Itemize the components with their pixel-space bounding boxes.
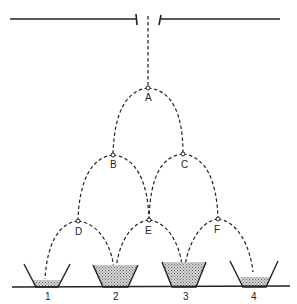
node-markers bbox=[76, 86, 220, 223]
node-A-label: A bbox=[145, 92, 152, 103]
container-2-label: 2 bbox=[113, 291, 119, 302]
container-2-fill bbox=[93, 265, 138, 287]
node-D-label: D bbox=[75, 226, 82, 237]
path-C-F bbox=[183, 154, 218, 219]
containers bbox=[24, 261, 278, 287]
node-D-marker bbox=[76, 219, 80, 223]
paths bbox=[45, 16, 253, 279]
path-D-1 bbox=[45, 221, 78, 279]
node-A-marker bbox=[146, 86, 150, 90]
container-3 bbox=[162, 262, 206, 287]
node-E-label: E bbox=[145, 225, 152, 236]
node-labels: A B C D E F bbox=[75, 92, 220, 237]
container-4-label: 4 bbox=[251, 291, 257, 302]
path-C-E bbox=[149, 154, 183, 220]
node-C-label: C bbox=[181, 159, 188, 170]
node-C-marker bbox=[181, 152, 185, 156]
container-2 bbox=[93, 265, 138, 287]
path-E-3 bbox=[149, 220, 182, 266]
slit-edge-left bbox=[136, 14, 137, 25]
path-F-4 bbox=[218, 219, 253, 272]
path-A-C bbox=[148, 88, 183, 154]
container-3-label: 3 bbox=[183, 291, 189, 302]
container-4 bbox=[230, 261, 278, 287]
path-A-B bbox=[113, 88, 148, 155]
container-3-fill bbox=[162, 262, 206, 287]
path-B-E bbox=[113, 155, 149, 220]
barrier bbox=[10, 14, 280, 25]
node-F-label: F bbox=[214, 224, 220, 235]
container-1-label: 1 bbox=[45, 291, 51, 302]
container-labels: 1 2 3 4 bbox=[45, 291, 257, 302]
branching-diagram: A B C D E F 1 2 3 4 bbox=[0, 0, 297, 304]
node-B-label: B bbox=[110, 159, 117, 170]
ground-line bbox=[12, 286, 290, 287]
slit-edge-right bbox=[159, 15, 161, 25]
path-D-2 bbox=[78, 221, 114, 270]
node-F-marker bbox=[216, 217, 220, 221]
node-B-marker bbox=[111, 153, 115, 157]
path-B-D bbox=[78, 155, 113, 221]
container-1 bbox=[24, 264, 70, 287]
container-1-fill bbox=[33, 280, 62, 287]
node-E-marker bbox=[147, 218, 151, 222]
